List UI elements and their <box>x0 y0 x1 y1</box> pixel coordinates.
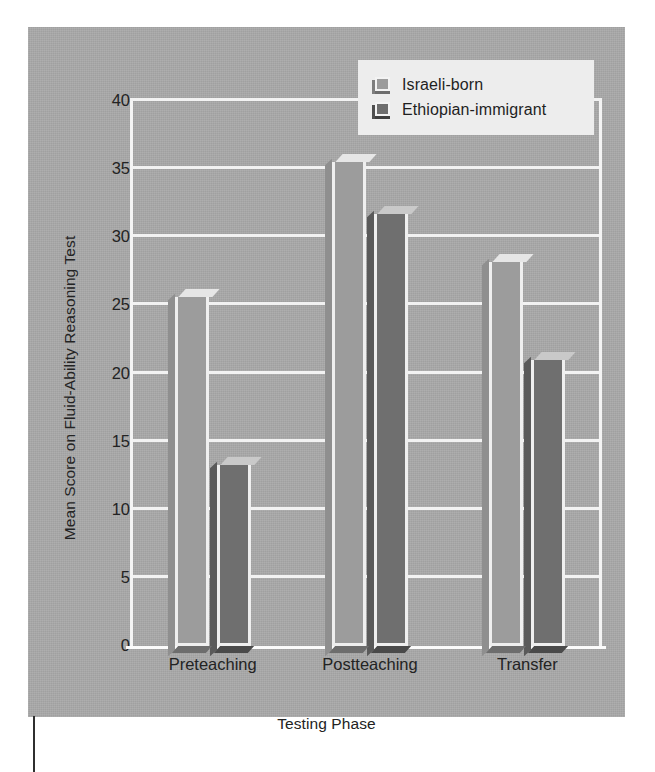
legend-sw-face <box>375 77 390 91</box>
bar-face <box>531 360 565 646</box>
bar-cap-top <box>535 352 576 360</box>
legend-sw-bottom <box>375 116 390 119</box>
legend-item-label: Israeli-born <box>402 76 483 94</box>
y-axis-tick-label: 25 <box>84 296 130 313</box>
x-axis-title: Testing Phase <box>28 715 625 733</box>
chart-legend: Israeli-bornEthiopian-immigrant <box>358 60 594 135</box>
dark-gray-3d-swatch <box>372 102 390 119</box>
bar-cap-bottom <box>371 646 411 653</box>
legend-sw-bottom <box>375 91 390 94</box>
bar-cap-side <box>524 357 531 656</box>
bar-cap-bottom <box>214 646 254 653</box>
bar-group <box>287 101 444 646</box>
bar-postteaching-israeli-born <box>332 162 366 646</box>
bar-cap-side <box>210 462 217 657</box>
bar-group <box>130 101 287 646</box>
bar-cap-top <box>220 457 261 465</box>
bar-series-container <box>130 101 602 646</box>
y-axis-tick-label: 40 <box>84 92 130 109</box>
bar-cap-bottom <box>172 646 212 653</box>
page-margin-rule <box>33 716 35 772</box>
y-axis-tick-label: 0 <box>84 637 130 654</box>
y-axis-tick-label: 15 <box>84 433 130 450</box>
bar-cap-bottom <box>528 646 568 653</box>
bar-face <box>374 214 408 646</box>
y-axis-title: Mean Score on Fluid-Ability Reasoning Te… <box>61 128 79 648</box>
bar-cap-top <box>493 254 534 262</box>
y-axis-tick-label: 20 <box>84 365 130 382</box>
bar-group <box>445 101 602 646</box>
x-axis-tick-labels: PreteachingPostteachingTransfer <box>130 655 602 685</box>
y-axis-tick-label: 30 <box>84 228 130 245</box>
bar-cap-bottom <box>329 646 369 653</box>
light-gray-3d-swatch <box>372 77 390 94</box>
x-axis-tick-label-postteaching: Postteaching <box>322 655 417 674</box>
plot-area <box>130 101 602 646</box>
bar-cap-side <box>168 294 175 656</box>
legend-item: Ethiopian-immigrant <box>372 101 594 119</box>
bar-postteaching-ethiopian-immigrant <box>374 214 408 646</box>
y-axis-tick-labels: 0510152025303540 <box>84 27 130 717</box>
bar-cap-side <box>325 159 332 656</box>
bar-cap-bottom <box>486 646 526 653</box>
bar-cap-top <box>335 154 376 162</box>
bar-cap-top <box>178 289 219 297</box>
bar-transfer-ethiopian-immigrant <box>531 360 565 646</box>
bar-face <box>217 465 251 646</box>
chart-figure-panel: Mean Score on Fluid-Ability Reasoning Te… <box>28 27 625 717</box>
bar-preteaching-ethiopian-immigrant <box>217 465 251 646</box>
x-axis-tick-label-transfer: Transfer <box>497 655 558 674</box>
bar-cap-top <box>377 206 418 214</box>
legend-item-label: Ethiopian-immigrant <box>402 101 546 119</box>
scanned-page: Mean Score on Fluid-Ability Reasoning Te… <box>0 0 655 772</box>
bar-cap-side <box>367 211 374 656</box>
y-axis-tick-label: 5 <box>84 569 130 586</box>
bar-face <box>332 162 366 646</box>
bar-face <box>489 262 523 646</box>
legend-item: Israeli-born <box>372 76 594 94</box>
bar-transfer-israeli-born <box>489 262 523 646</box>
legend-sw-face <box>375 102 390 116</box>
bar-preteaching-israeli-born <box>175 297 209 646</box>
bar-cap-side <box>482 259 489 657</box>
y-axis-tick-label: 10 <box>84 501 130 518</box>
bar-face <box>175 297 209 646</box>
x-axis-tick-label-preteaching: Preteaching <box>169 655 257 674</box>
y-axis-tick-label: 35 <box>84 160 130 177</box>
